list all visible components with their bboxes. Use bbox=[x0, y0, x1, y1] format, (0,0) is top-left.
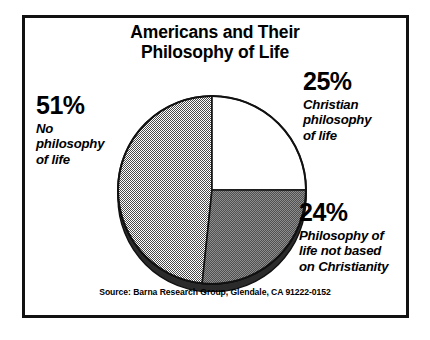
callout-non-christian-line2: life not based bbox=[299, 243, 430, 258]
callout-christian-percent: 25% bbox=[303, 69, 427, 94]
callout-christian-description: Christian philosophy of life bbox=[303, 97, 427, 143]
callout-no-philosophy-description: No philosophy of life bbox=[36, 121, 146, 167]
callout-no-philosophy-line3: of life bbox=[36, 152, 146, 167]
callout-no-philosophy-line1: No bbox=[36, 121, 146, 136]
callout-christian-line1: Christian bbox=[303, 97, 427, 112]
callout-no-philosophy: 51% No philosophy of life bbox=[36, 93, 146, 167]
chart-title-line2: Philosophy of Life bbox=[40, 42, 390, 62]
callout-no-philosophy-line2: philosophy bbox=[36, 136, 146, 151]
callout-non-christian: 24% Philosophy of life not based on Chri… bbox=[299, 200, 430, 274]
source-credit: Source: Barna Research Group, Glendale, … bbox=[40, 287, 390, 297]
callout-christian: 25% Christian philosophy of life bbox=[303, 69, 427, 143]
pie-slice-christian bbox=[212, 96, 306, 190]
callout-christian-line2: philosophy bbox=[303, 112, 427, 127]
callout-christian-line3: of life bbox=[303, 128, 427, 143]
chart-title: Americans and Their Philosophy of Life bbox=[40, 22, 390, 63]
pie-slice-non-christian bbox=[202, 190, 306, 284]
callout-no-philosophy-percent: 51% bbox=[36, 93, 146, 118]
callout-non-christian-line3: on Christianity bbox=[299, 259, 430, 274]
chart-title-line1: Americans and Their bbox=[130, 22, 299, 42]
callout-non-christian-description: Philosophy of life not based on Christia… bbox=[299, 228, 430, 274]
callout-non-christian-line1: Philosophy of bbox=[299, 228, 430, 243]
pie-chart-figure: Americans and Their Philosophy of Life bbox=[0, 0, 430, 340]
callout-non-christian-percent: 24% bbox=[299, 200, 430, 225]
